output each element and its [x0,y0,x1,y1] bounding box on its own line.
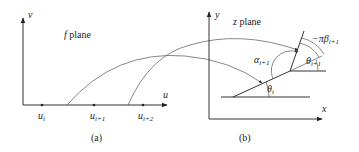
f-plane-var: f [64,29,67,40]
caption-b: (b) [239,133,251,143]
z-plane-title: z plane [233,17,261,27]
alpha-arc [271,51,298,79]
point-u-i2 [142,104,145,107]
v-axis-label: v [28,10,32,20]
beta-label: −πβi+1 [312,34,339,46]
z-plane-var: z [233,16,237,27]
caption-a: (a) [91,133,102,143]
conformal-mapping-diagram [0,0,359,152]
theta-i-label: θi [267,84,274,96]
theta-i1-label: θi+1 [306,56,321,68]
edge-i [233,71,290,97]
mapping-curves [67,39,298,105]
y-axis-label: y [215,10,219,20]
label-u-i: ui [38,111,45,123]
z-plane-word: plane [239,16,261,27]
point-u-i [41,104,44,107]
alpha-label: αi+1 [254,55,269,67]
u-axis-label: u [163,90,168,100]
f-plane-axes [23,18,167,106]
f-plane-title: f plane [64,30,91,40]
point-u-i1 [93,104,96,107]
x-axis-label: x [322,104,326,114]
f-plane-word: plane [69,29,91,40]
label-u-i2: ui+2 [138,111,153,123]
label-u-i1: ui+1 [90,111,105,123]
